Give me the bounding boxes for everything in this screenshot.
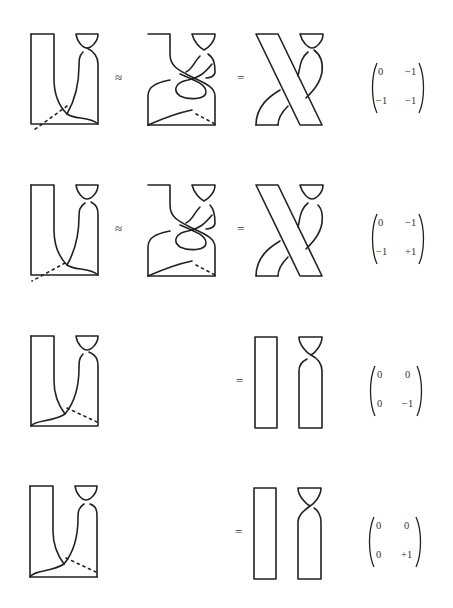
matrix-cell-c: −1 bbox=[376, 246, 387, 257]
matrix-cell-b: −1 bbox=[405, 66, 416, 77]
matrix-cell-b: 0 bbox=[405, 369, 410, 380]
row4-equals-symbol: = bbox=[235, 524, 242, 540]
matrix-cell-a: 0 bbox=[377, 369, 382, 380]
matrix-cell-c: 0 bbox=[377, 398, 382, 409]
left-paren bbox=[367, 516, 375, 568]
matrix-cell-c: −1 bbox=[376, 95, 387, 106]
row1-equals-symbol: = bbox=[237, 70, 244, 86]
row4-untwisted-band bbox=[254, 488, 276, 579]
left-paren bbox=[368, 365, 376, 417]
right-paren bbox=[415, 516, 423, 568]
matrix-cell-a: 0 bbox=[378, 217, 383, 228]
row2-right-band bbox=[256, 185, 323, 276]
row1-matrix: 0 −1 −1 −1 bbox=[370, 62, 426, 114]
row3-untwisted-band bbox=[255, 337, 277, 428]
matrix-cell-d: −1 bbox=[405, 95, 416, 106]
row1-approx-symbol: ≈ bbox=[115, 70, 122, 86]
matrix-cell-b: 0 bbox=[404, 520, 409, 531]
row1-left-band bbox=[31, 34, 98, 130]
row2-matrix: 0 −1 −1 +1 bbox=[370, 213, 426, 265]
matrix-cell-d: +1 bbox=[401, 549, 412, 560]
matrix-cell-a: 0 bbox=[376, 520, 381, 531]
row4-right-bands bbox=[254, 488, 321, 579]
matrix-cell-c: 0 bbox=[376, 549, 381, 560]
row3-left-band bbox=[31, 336, 98, 426]
right-paren bbox=[418, 213, 426, 265]
right-paren bbox=[416, 365, 424, 417]
matrix-cell-d: +1 bbox=[405, 246, 416, 257]
row2-approx-symbol: ≈ bbox=[115, 221, 122, 237]
row2-left-band bbox=[31, 185, 98, 281]
row3-equals-symbol: = bbox=[236, 373, 243, 389]
matrix-cell-d: −1 bbox=[402, 398, 413, 409]
row2-equals-symbol: = bbox=[237, 221, 244, 237]
row3-right-bands bbox=[255, 337, 322, 428]
row4-left-band bbox=[30, 486, 97, 577]
matrix-cell-a: 0 bbox=[378, 66, 383, 77]
row4-matrix: 0 0 0 +1 bbox=[367, 516, 423, 568]
left-paren bbox=[370, 213, 378, 265]
row2-middle-band bbox=[148, 185, 215, 276]
matrix-cell-b: −1 bbox=[405, 217, 416, 228]
row1-right-band bbox=[256, 34, 323, 125]
row1-middle-band bbox=[148, 34, 215, 125]
left-paren bbox=[370, 62, 378, 114]
right-paren bbox=[418, 62, 426, 114]
row3-matrix: 0 0 0 −1 bbox=[368, 365, 424, 417]
